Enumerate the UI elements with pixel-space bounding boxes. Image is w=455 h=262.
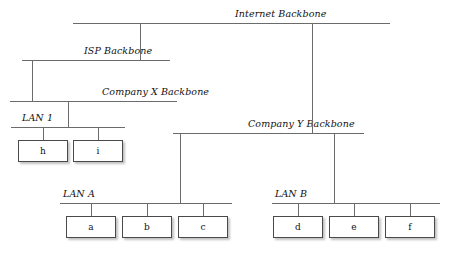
node-e[interactable]: e (329, 216, 379, 238)
connector-isp-to-company-x (32, 60, 33, 101)
connector-company-y-to-lan-b (334, 133, 335, 203)
bus-label-internet-backbone: Internet Backbone (235, 8, 326, 19)
node-i[interactable]: i (73, 140, 123, 162)
node-b-label: b (144, 222, 150, 232)
bus-line-lan-a (60, 203, 232, 204)
connector-company-y-to-lan-a (180, 133, 181, 203)
node-h-label: h (40, 146, 46, 156)
connector-lan-a-to-b (147, 203, 148, 216)
bus-label-isp-backbone: ISP Backbone (84, 45, 152, 56)
connector-lan-b-to-d (298, 203, 299, 216)
bus-line-company-x-backbone (10, 101, 177, 102)
node-a[interactable]: a (66, 216, 116, 238)
network-topology-diagram: Internet BackboneISP BackboneCompany X B… (0, 0, 455, 262)
connector-internet-to-company-y (312, 23, 313, 133)
bus-line-company-y-backbone (173, 133, 364, 134)
node-h[interactable]: h (18, 140, 68, 162)
bus-line-lan-1 (11, 127, 125, 128)
connector-lan-1-to-i (98, 127, 99, 140)
bus-label-company-x-backbone: Company X Backbone (102, 86, 209, 97)
node-a-label: a (88, 222, 93, 232)
connector-company-x-to-lan-1 (68, 101, 69, 127)
node-i-label: i (97, 146, 100, 156)
connector-lan-b-to-e (354, 203, 355, 216)
bus-label-lan-b: LAN B (275, 188, 307, 199)
connector-lan-1-to-h (43, 127, 44, 140)
connector-lan-a-to-c (203, 203, 204, 216)
bus-label-lan-a: LAN A (63, 188, 95, 199)
node-c[interactable]: c (178, 216, 228, 238)
connector-lan-b-to-f (410, 203, 411, 216)
connector-lan-a-to-a (91, 203, 92, 216)
node-f[interactable]: f (385, 216, 435, 238)
bus-label-lan-1: LAN 1 (22, 112, 53, 123)
node-e-label: e (351, 222, 356, 232)
node-d[interactable]: d (273, 216, 323, 238)
bus-line-internet-backbone (73, 23, 390, 24)
node-b[interactable]: b (122, 216, 172, 238)
connector-internet-to-isp (140, 23, 141, 60)
bus-line-isp-backbone (22, 60, 170, 61)
node-d-label: d (295, 222, 301, 232)
node-f-label: f (408, 222, 411, 232)
node-c-label: c (200, 222, 205, 232)
bus-label-company-y-backbone: Company Y Backbone (248, 118, 355, 129)
